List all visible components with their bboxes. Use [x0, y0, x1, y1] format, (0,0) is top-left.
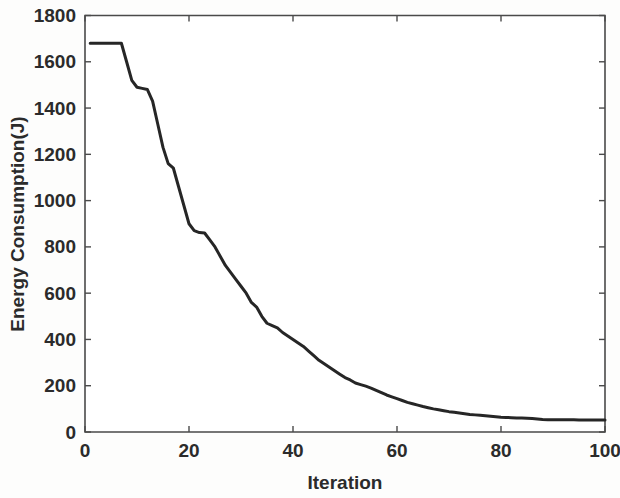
plot-area-background — [85, 16, 605, 433]
y-tick-label: 800 — [44, 236, 76, 257]
x-tick-label: 80 — [490, 440, 511, 461]
chart-figure: 020406080100 020040060080010001200140016… — [0, 0, 620, 498]
y-tick-label: 200 — [44, 375, 76, 396]
x-tick-label: 20 — [178, 440, 199, 461]
x-tick-label: 60 — [386, 440, 407, 461]
y-tick-label: 1200 — [34, 144, 76, 165]
y-tick-label: 600 — [44, 283, 76, 304]
line-chart: 020406080100 020040060080010001200140016… — [0, 0, 620, 498]
x-tick-label: 100 — [589, 440, 620, 461]
y-tick-label: 1800 — [34, 5, 76, 26]
x-axis-title: Iteration — [308, 472, 383, 493]
y-tick-label: 400 — [44, 329, 76, 350]
y-tick-label: 1600 — [34, 51, 76, 72]
x-tick-label: 0 — [80, 440, 91, 461]
x-tick-label: 40 — [282, 440, 303, 461]
y-tick-label: 1000 — [34, 190, 76, 211]
y-tick-label: 1400 — [34, 98, 76, 119]
y-tick-label: 0 — [65, 422, 76, 443]
y-axis-title: Energy Consumption(J) — [7, 116, 28, 331]
